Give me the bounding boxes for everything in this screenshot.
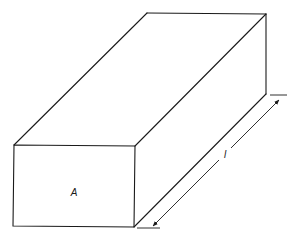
prism-diagram: A l <box>0 0 300 243</box>
length-arrow-lower <box>153 160 219 226</box>
length-arrow-upper <box>231 100 279 148</box>
length-label: l <box>224 149 227 160</box>
top-right-edge <box>135 14 266 146</box>
front-face <box>13 145 135 227</box>
bottom-right-edge <box>134 94 266 227</box>
front-face-label: A <box>70 187 78 198</box>
top-back-edge <box>147 13 266 14</box>
top-left-edge <box>14 13 147 145</box>
